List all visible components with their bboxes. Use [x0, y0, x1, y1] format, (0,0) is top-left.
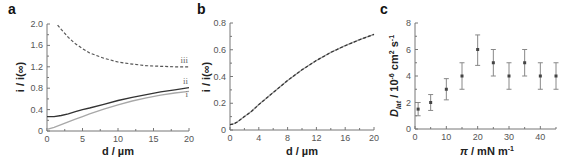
x-tick-label: 16	[340, 133, 350, 143]
curve-label: iii	[180, 55, 188, 65]
x-tick-label: 20	[473, 132, 483, 142]
y-tick-label: 6	[406, 45, 411, 55]
y-tick-label: 0.8	[30, 83, 43, 93]
y-tick-label: 0	[38, 126, 43, 136]
series-line-ii	[47, 88, 189, 117]
figure: a b c 00.40.81.21.62.005101520iiiiii d /…	[0, 0, 573, 165]
x-tick-label: 8	[285, 133, 290, 143]
x-tick-label: 40	[535, 132, 545, 142]
y-tick-label: 4	[406, 71, 411, 81]
panel-b-xlabel: d / µm	[286, 145, 318, 157]
data-point	[429, 101, 432, 104]
x-tick-label: 5	[80, 134, 85, 144]
x-tick-label: 12	[311, 133, 321, 143]
y-tick-label: 0.4	[30, 105, 43, 115]
y-tick-label: 1.2	[30, 62, 43, 72]
panel-c-chart: 02468010203040	[406, 18, 559, 142]
data-point	[492, 61, 495, 64]
panel-label-b: b	[197, 1, 206, 17]
panel-c-xlabel: π / mN m-1	[460, 145, 514, 157]
y-tick-label: 0.8	[213, 18, 226, 28]
pi-symbol: π	[460, 145, 468, 157]
y-tick-label: 2.0	[30, 19, 43, 29]
x-tick-label: 30	[504, 132, 514, 142]
data-point	[461, 75, 464, 78]
data-point	[508, 75, 511, 78]
y-tick-label: 1.6	[30, 40, 43, 50]
x-tick-label: 20	[184, 134, 194, 144]
x-tick-label: 15	[148, 134, 158, 144]
curve-label: i	[185, 89, 188, 99]
y-tick-label: 0.2	[213, 98, 226, 108]
panel-label-c: c	[380, 1, 388, 17]
x-tick-label: 20	[369, 133, 379, 143]
series-line-i	[47, 91, 189, 129]
data-point	[445, 88, 448, 91]
panel-b-ylabel: i / i(∞)	[200, 61, 212, 92]
data-point	[523, 61, 526, 64]
y-tick-label: 8	[406, 18, 411, 28]
y-tick-label: 0.4	[213, 72, 226, 82]
x-tick-label: 10	[441, 132, 451, 142]
y-tick-label: 0	[406, 124, 411, 134]
y-tick-label: 0.6	[213, 45, 226, 55]
series-line-iii	[58, 25, 189, 67]
panel-a-ylabel: i / i(∞)	[14, 61, 26, 92]
panel-a-chart: 00.40.81.21.62.005101520iiiiii	[30, 19, 194, 144]
data-point	[417, 108, 420, 111]
y-tick-label: 0	[221, 125, 226, 135]
data-point	[476, 48, 479, 51]
y-tick-label: 2	[406, 98, 411, 108]
x-tick-label: 10	[113, 134, 123, 144]
panel-c-ylabel: Dlat / 10-6 cm2 s-1	[388, 35, 402, 117]
x-tick-label: 4	[256, 133, 261, 143]
x-tick-label: 0	[412, 132, 417, 142]
x-tick-label: 0	[227, 133, 232, 143]
panel-label-a: a	[8, 1, 16, 17]
panel-a-xlabel: d / µm	[102, 145, 134, 157]
series-line-fit	[230, 34, 374, 124]
data-point	[539, 75, 542, 78]
x-tick-label: 0	[44, 134, 49, 144]
panel-b-chart: 00.20.40.60.8048121620	[213, 18, 379, 143]
data-point	[555, 75, 558, 78]
curve-label: ii	[183, 76, 189, 86]
